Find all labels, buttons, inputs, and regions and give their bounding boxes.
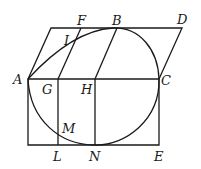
label-B: B <box>111 13 122 28</box>
label-L: L <box>52 149 62 164</box>
label-F: F <box>76 13 87 28</box>
label-A: A <box>12 72 22 87</box>
label-M: M <box>61 121 76 136</box>
label-H: H <box>80 82 93 97</box>
label-D: D <box>176 12 188 27</box>
label-I: I <box>63 33 70 48</box>
segment-FG <box>58 28 81 79</box>
label-G: G <box>42 82 52 97</box>
label-E: E <box>153 149 164 164</box>
geometry-diagram: A B C D E F G H I L M N <box>0 0 201 169</box>
label-C: C <box>161 73 171 88</box>
label-N: N <box>88 149 101 164</box>
segment-BH <box>95 28 117 79</box>
